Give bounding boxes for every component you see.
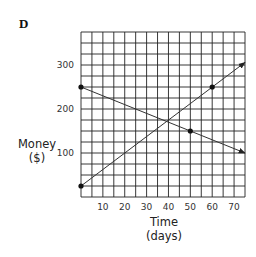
x-tick-label: 60: [206, 202, 218, 212]
y-tick-label: 300: [57, 60, 74, 70]
data-point-increasing: [78, 183, 83, 188]
chart: D 100200300 10203040506070 Money ($) Tim…: [0, 0, 256, 257]
y-tick-labels: 100200300: [57, 60, 74, 158]
data-point-decreasing: [78, 84, 83, 89]
x-axis-label-line1: Time: [149, 215, 178, 229]
x-tick-label: 10: [97, 202, 109, 212]
x-tick-label: 20: [119, 202, 131, 212]
x-tick-label: 40: [163, 202, 175, 212]
x-tick-label: 30: [141, 202, 153, 212]
y-axis-label-line1: Money: [18, 137, 56, 151]
x-tick-label: 70: [228, 202, 240, 212]
data-point-increasing: [210, 84, 215, 89]
grid: [81, 32, 245, 197]
y-tick-label: 200: [57, 104, 74, 114]
x-axis-label-line2: (days): [146, 229, 182, 243]
panel-label: D: [19, 16, 28, 31]
series-layer: [78, 62, 245, 188]
y-tick-label: 100: [57, 148, 74, 158]
data-point-decreasing: [188, 128, 193, 133]
series-line-increasing: [81, 62, 245, 186]
x-tick-labels: 10203040506070: [97, 202, 240, 212]
x-tick-label: 50: [185, 202, 197, 212]
y-axis-label-line2: ($): [29, 151, 45, 165]
